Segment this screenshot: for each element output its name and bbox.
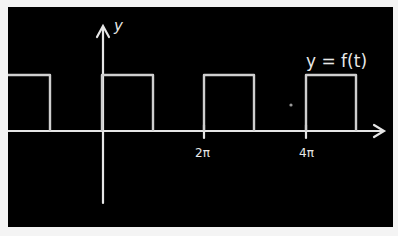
square-wave-chart: y y = f(t) 2π 4π bbox=[8, 7, 393, 227]
tick-label-2pi: 2π bbox=[195, 146, 210, 160]
pulse-2 bbox=[204, 75, 254, 131]
tick-label-4pi: 4π bbox=[299, 146, 314, 160]
pulse-3 bbox=[306, 75, 356, 131]
y-axis-label: y bbox=[113, 17, 124, 35]
chalkboard: y y = f(t) 2π 4π bbox=[8, 7, 393, 227]
square-wave bbox=[8, 75, 356, 131]
cursor-mark bbox=[289, 103, 292, 106]
function-label: y = f(t) bbox=[306, 51, 367, 71]
pulse-1 bbox=[102, 75, 153, 131]
pulse-0 bbox=[8, 75, 50, 131]
